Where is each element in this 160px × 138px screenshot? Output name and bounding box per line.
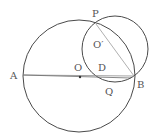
- circle-o-prime: [82, 16, 148, 82]
- point-o-dot: [79, 76, 81, 78]
- label-a: A: [9, 70, 18, 81]
- label-p: P: [92, 8, 99, 19]
- label-o-prime: O′: [93, 39, 104, 50]
- label-o: O: [74, 62, 82, 73]
- label-q: Q: [105, 86, 113, 97]
- label-b: B: [137, 79, 144, 90]
- label-d: D: [98, 62, 106, 73]
- geometry-diagram: A B O D O′ P Q: [0, 0, 160, 138]
